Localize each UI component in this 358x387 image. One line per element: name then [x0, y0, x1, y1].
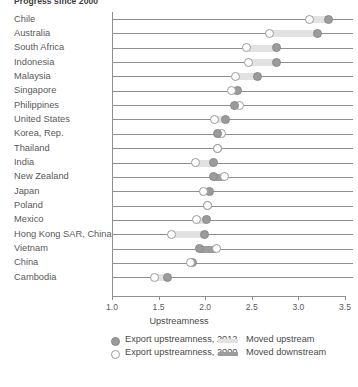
data-point-2012 [272, 43, 281, 52]
category-label: Chile [14, 14, 35, 24]
legend-marker-filled-icon [111, 337, 120, 346]
row-baseline [112, 263, 353, 264]
data-point-2000 [265, 29, 274, 38]
category-label: Korea, Rep. [14, 128, 64, 138]
data-point-2000 [167, 230, 176, 239]
x-axis-tick [205, 296, 206, 300]
row-baseline [112, 177, 353, 178]
row-baseline [112, 249, 353, 250]
row-baseline [112, 48, 353, 49]
data-point-2000 [210, 115, 219, 124]
legend-bar-upstream-icon [218, 339, 238, 343]
data-point-2000 [212, 244, 221, 253]
category-label: Singapore [14, 85, 56, 95]
chart-legend: Export upstreamness, 2012 Export upstrea… [0, 334, 358, 366]
x-axis-tick-label: 2.5 [239, 302, 265, 312]
row-baseline [112, 220, 353, 221]
category-label: Vietnam [14, 243, 48, 253]
row-baseline [112, 234, 353, 235]
x-axis-tick-label: 1.0 [99, 302, 125, 312]
data-point-2000 [227, 86, 236, 95]
chart-title: Progress since 2000 [14, 0, 98, 6]
row-baseline [112, 163, 353, 164]
category-label: Hong Kong SAR, China [14, 229, 112, 239]
category-label: Indonesia [14, 57, 54, 67]
data-point-2012 [324, 15, 333, 24]
x-axis-line [112, 296, 345, 297]
category-label: New Zealand [14, 171, 69, 181]
row-baseline [112, 277, 353, 278]
data-point-2000 [305, 15, 314, 24]
row-baseline [112, 148, 353, 149]
x-axis-tick-label: 3.0 [285, 302, 311, 312]
x-axis-tick [159, 296, 160, 300]
category-label: Malaysia [14, 71, 51, 81]
data-point-2012 [200, 230, 209, 239]
row-baseline [112, 191, 353, 192]
data-point-2000 [242, 43, 251, 52]
legend-bar-downstream-icon [218, 352, 238, 356]
x-axis-tick-label: 1.5 [146, 302, 172, 312]
data-point-2012 [272, 58, 281, 67]
category-label: Mexico [14, 214, 43, 224]
x-axis-tick-label: 2.0 [192, 302, 218, 312]
x-axis-tick [112, 296, 113, 300]
legend-label-moved-upstream: Moved upstream [246, 334, 314, 344]
category-label: South Africa [14, 42, 64, 52]
x-axis-tick [298, 296, 299, 300]
category-label: India [14, 157, 34, 167]
x-axis-tick [345, 296, 346, 300]
data-point-2000 [213, 144, 222, 153]
legend-label-moved-downstream: Moved downstream [246, 347, 326, 357]
data-point-2012 [209, 158, 218, 167]
data-point-2000 [203, 201, 212, 210]
plot-area: ChileAustraliaSouth AfricaIndonesiaMalay… [0, 12, 358, 295]
data-point-2000 [220, 172, 229, 181]
category-label: Cambodia [14, 272, 56, 282]
category-label: United States [14, 114, 70, 124]
x-axis-tick [252, 296, 253, 300]
data-point-2012 [230, 101, 239, 110]
x-axis-title: Upstreamness [0, 316, 358, 326]
data-point-2012 [163, 273, 172, 282]
legend-marker-open-icon [111, 350, 120, 359]
category-label: Australia [14, 28, 50, 38]
row-baseline [112, 134, 353, 135]
category-label: Poland [14, 200, 43, 210]
x-axis: 1.01.52.02.53.03.5 [0, 296, 358, 318]
data-point-2012 [221, 115, 230, 124]
data-point-2000 [244, 58, 253, 67]
row-baseline [112, 206, 353, 207]
category-label: Thailand [14, 143, 50, 153]
category-label: Japan [14, 186, 39, 196]
data-point-2012 [313, 29, 322, 38]
category-label: Philippines [14, 100, 59, 110]
row-baseline [112, 119, 353, 120]
row-baseline [112, 62, 353, 63]
x-axis-tick-label: 3.5 [332, 302, 358, 312]
chart-container: Progress since 2000 ChileAustraliaSouth … [0, 0, 358, 387]
data-point-2000 [199, 187, 208, 196]
data-point-2000 [231, 72, 240, 81]
data-point-2012 [253, 72, 262, 81]
data-point-2012 [202, 215, 211, 224]
connector-moved-upstream [270, 30, 318, 37]
y-axis-line [112, 12, 113, 296]
category-label: China [14, 257, 38, 267]
